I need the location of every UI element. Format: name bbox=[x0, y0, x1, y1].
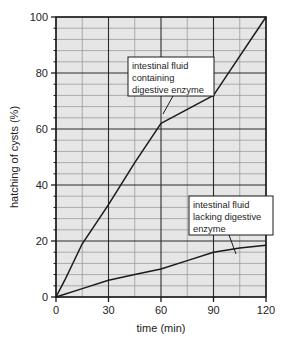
annotation-enzyme-line: digestive enzyme bbox=[132, 85, 204, 95]
y-axis-title: hatching of cysts (%) bbox=[8, 106, 20, 208]
annotation-no-enzyme-line: intestinal fluid bbox=[193, 200, 249, 210]
y-tick-label: 100 bbox=[30, 11, 48, 23]
x-tick-label: 0 bbox=[53, 304, 59, 316]
annotation-enzyme-line: intestinal fluid bbox=[132, 61, 188, 71]
annotation-no-enzyme-line: lacking digestive bbox=[193, 212, 261, 222]
y-tick-label: 60 bbox=[36, 123, 48, 135]
annotation-no-enzyme-line: enzyme bbox=[193, 224, 226, 234]
x-tick-label: 120 bbox=[257, 304, 275, 316]
y-tick-label: 20 bbox=[36, 235, 48, 247]
x-tick-label: 30 bbox=[102, 304, 114, 316]
annotation-enzyme-line: containing bbox=[132, 73, 174, 83]
y-tick-label: 80 bbox=[36, 67, 48, 79]
chart-figure: 020406080100 0306090120 hatching of cyst… bbox=[0, 0, 288, 343]
hatching-of-cysts-line-chart: 020406080100 0306090120 hatching of cyst… bbox=[0, 0, 288, 343]
y-tick-label: 40 bbox=[36, 179, 48, 191]
x-tick-label: 60 bbox=[155, 304, 167, 316]
y-tick-label: 0 bbox=[42, 291, 48, 303]
x-axis-title: time (min) bbox=[137, 322, 186, 334]
x-tick-label: 90 bbox=[207, 304, 219, 316]
